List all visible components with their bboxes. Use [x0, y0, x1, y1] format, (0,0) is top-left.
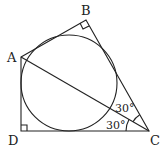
label-d: D — [8, 133, 18, 146]
geometry-figure: B A D C 30° 30° — [0, 0, 163, 146]
label-c: C — [150, 133, 160, 146]
angle-label-acd: 30° — [106, 119, 126, 132]
inscribed-circle — [21, 35, 117, 131]
label-a: A — [6, 50, 17, 65]
diagonal-ac — [21, 57, 149, 131]
angle-arc-bca — [133, 115, 140, 122]
angle-label-bca: 30° — [115, 102, 135, 115]
label-b: B — [81, 3, 91, 18]
angle-arc-acd — [126, 120, 129, 132]
right-angle-mark-d — [21, 125, 27, 131]
